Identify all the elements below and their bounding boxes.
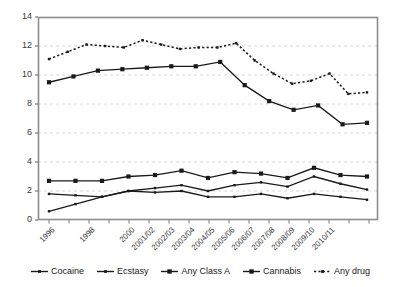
data-point bbox=[313, 175, 315, 177]
data-point bbox=[120, 67, 124, 71]
data-point bbox=[366, 199, 368, 201]
data-point bbox=[71, 74, 75, 78]
y-tick-label: 0 bbox=[10, 215, 32, 224]
data-point bbox=[96, 69, 100, 73]
data-point bbox=[316, 103, 320, 107]
data-point bbox=[48, 193, 50, 195]
legend-item-cannabis[interactable]: Cannabis bbox=[243, 267, 301, 276]
legend-item-any-drug[interactable]: Any drug bbox=[314, 267, 370, 276]
data-point bbox=[154, 191, 156, 193]
data-point bbox=[340, 122, 344, 126]
data-point bbox=[272, 72, 274, 74]
data-point bbox=[286, 185, 288, 187]
y-tick-label: 10 bbox=[10, 70, 32, 79]
y-tick-label: 12 bbox=[10, 41, 32, 50]
data-point bbox=[104, 45, 106, 47]
data-point bbox=[216, 46, 218, 48]
y-tick-label: 4 bbox=[10, 157, 32, 166]
y-tick-label: 2 bbox=[10, 186, 32, 195]
data-point bbox=[179, 48, 181, 50]
data-point bbox=[232, 170, 236, 174]
data-point bbox=[47, 179, 51, 183]
data-point bbox=[292, 108, 296, 112]
data-point bbox=[260, 193, 262, 195]
data-point bbox=[48, 58, 50, 60]
legend-marker-icon bbox=[31, 267, 48, 276]
data-point bbox=[207, 190, 209, 192]
data-point bbox=[347, 93, 349, 95]
data-point bbox=[123, 46, 125, 48]
data-point bbox=[141, 39, 143, 41]
data-point bbox=[366, 91, 368, 93]
data-point bbox=[73, 179, 77, 183]
data-point bbox=[197, 46, 199, 48]
data-point bbox=[313, 193, 315, 195]
data-point bbox=[328, 72, 330, 74]
legend-item-ecstasy[interactable]: Ecstasy bbox=[97, 267, 149, 276]
legend-label: Any drug bbox=[334, 267, 370, 276]
data-point bbox=[243, 83, 247, 87]
data-point bbox=[254, 59, 256, 61]
data-point bbox=[154, 187, 156, 189]
data-point bbox=[285, 176, 289, 180]
data-point bbox=[339, 196, 341, 198]
legend-marker-icon bbox=[314, 267, 331, 276]
legend-label: Cocaine bbox=[51, 267, 84, 276]
data-point bbox=[74, 203, 76, 205]
data-point bbox=[179, 169, 183, 173]
legend-label: Any Class A bbox=[181, 267, 230, 276]
legend-marker-icon bbox=[97, 267, 114, 276]
data-point bbox=[207, 196, 209, 198]
data-point bbox=[338, 173, 342, 177]
data-point bbox=[160, 43, 162, 45]
data-point bbox=[312, 166, 316, 170]
data-point bbox=[291, 83, 293, 85]
data-point bbox=[233, 184, 235, 186]
data-point bbox=[145, 66, 149, 70]
legend-marker-icon bbox=[243, 267, 260, 276]
data-point bbox=[260, 181, 262, 183]
chart-legend: CocaineEcstasyAny Class ACannabisAny dru… bbox=[0, 262, 401, 280]
data-point bbox=[101, 196, 103, 198]
chart-figure: 02468101214 1996199820002001/022002/0320… bbox=[0, 0, 401, 287]
legend-item-cocaine[interactable]: Cocaine bbox=[31, 267, 84, 276]
data-point bbox=[48, 210, 50, 212]
y-tick-label: 8 bbox=[10, 99, 32, 108]
data-point bbox=[127, 190, 129, 192]
data-point bbox=[365, 174, 369, 178]
data-point bbox=[180, 184, 182, 186]
data-point bbox=[169, 64, 173, 68]
data-point bbox=[67, 51, 69, 53]
data-point bbox=[126, 174, 130, 178]
legend-label: Cannabis bbox=[263, 267, 301, 276]
data-point bbox=[180, 190, 182, 192]
data-point bbox=[259, 172, 263, 176]
data-point bbox=[85, 43, 87, 45]
data-point bbox=[310, 80, 312, 82]
data-point bbox=[153, 173, 157, 177]
legend-item-any-class-a[interactable]: Any Class A bbox=[161, 267, 230, 276]
data-point bbox=[235, 42, 237, 44]
data-point bbox=[206, 176, 210, 180]
data-point bbox=[194, 64, 198, 68]
data-point bbox=[74, 194, 76, 196]
data-point bbox=[100, 179, 104, 183]
legend-marker-icon bbox=[161, 267, 178, 276]
legend-label: Ecstasy bbox=[117, 267, 149, 276]
data-point bbox=[267, 99, 271, 103]
data-point bbox=[365, 121, 369, 125]
y-tick-label: 14 bbox=[10, 12, 32, 21]
data-point bbox=[233, 196, 235, 198]
data-point bbox=[366, 188, 368, 190]
data-point bbox=[218, 60, 222, 64]
data-point bbox=[339, 183, 341, 185]
data-point bbox=[47, 80, 51, 84]
y-tick-label: 6 bbox=[10, 128, 32, 137]
data-point bbox=[286, 197, 288, 199]
